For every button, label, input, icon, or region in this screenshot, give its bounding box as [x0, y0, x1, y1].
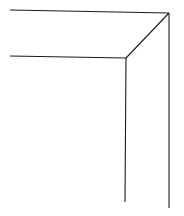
outer-top-edge — [10, 10, 169, 13]
inner-right-edge — [125, 58, 126, 202]
corner-frame-diagram — [0, 0, 184, 216]
inner-top-edge — [10, 56, 126, 58]
mitre-diagonal — [126, 13, 169, 58]
